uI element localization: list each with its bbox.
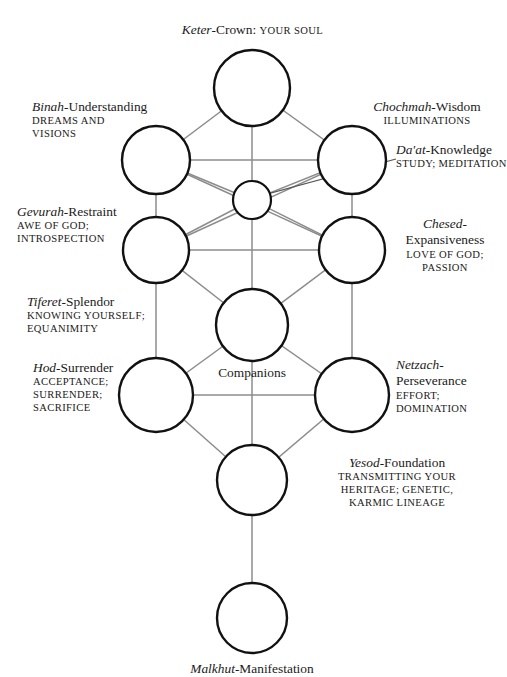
label-hod: Hod-Surrender ACCEPTANCE; SURRENDER; SAC… [33, 360, 113, 415]
label-chesed-dash: - [462, 216, 466, 231]
circle-tiferet[interactable] [216, 289, 288, 361]
label-tiferet-attr-2: EQUANIMITY [27, 323, 145, 336]
label-netzach-term: Netzach- [396, 357, 467, 373]
circle-yesod[interactable] [217, 445, 287, 515]
label-malkhut-hebrew: Malkhut [190, 661, 235, 676]
label-keter: Keter-Crown: YOUR SOUL [135, 22, 370, 38]
label-chochmah-term: Chochmah-Wisdom [352, 99, 502, 115]
label-chesed-term: Chesed- [390, 216, 500, 232]
label-binah-attributes: DREAMS AND VISIONS [32, 115, 147, 141]
label-tiferet: Tiferet-Splendor KNOWING YOURSELF; EQUAN… [27, 294, 145, 336]
label-netzach-english: Perseverance [396, 373, 467, 389]
label-netzach-attributes: EFFORT; DOMINATION [396, 390, 467, 416]
label-binah-term: Binah-Understanding [32, 99, 147, 115]
label-tiferet-hebrew: Tiferet [27, 294, 61, 309]
label-netzach-attr-2: DOMINATION [396, 403, 467, 416]
label-netzach: Netzach- Perseverance EFFORT; DOMINATION [396, 357, 467, 416]
label-chochmah: Chochmah-Wisdom ILLUMINATIONS [352, 99, 502, 128]
label-chesed: Chesed- Expansiveness LOVE OF GOD; PASSI… [390, 216, 500, 275]
circle-gevurah[interactable] [123, 217, 189, 283]
label-netzach-attr-1: EFFORT; [396, 390, 467, 403]
label-gevurah-attr-1: AWE OF GOD; [17, 220, 117, 233]
label-yesod-attr-3: KARMIC LINEAGE [302, 497, 492, 510]
label-daat: Da'at-Knowledge STUDY; MEDITATION [396, 142, 507, 171]
label-keter-english: Crown [216, 22, 252, 37]
circle-chochmah[interactable] [318, 126, 386, 194]
label-tiferet-term: Tiferet-Splendor [27, 294, 145, 310]
label-tiferet-attributes: KNOWING YOURSELF; EQUANIMITY [27, 310, 145, 336]
label-keter-hebrew: Keter [182, 22, 212, 37]
label-hod-english: Surrender [61, 360, 114, 375]
label-yesod-attr-2: HERITAGE; GENETIC, [302, 484, 492, 497]
label-daat-term: Da'at-Knowledge [396, 142, 507, 158]
label-yesod: Yesod-Foundation TRANSMITTING YOUR HERIT… [302, 455, 492, 510]
circle-daat[interactable] [233, 181, 271, 219]
label-yesod-attr-1: TRANSMITTING YOUR [302, 471, 492, 484]
label-malkhut: Malkhut-Manifestation [152, 661, 352, 677]
label-hod-attr-1: ACCEPTANCE; [33, 376, 113, 389]
label-yesod-english: Foundation [384, 455, 445, 470]
label-chesed-english: Expansiveness [390, 232, 500, 248]
label-chesed-attr-1: LOVE OF GOD; [390, 249, 500, 262]
label-hod-attributes: ACCEPTANCE; SURRENDER; SACRIFICE [33, 376, 113, 415]
label-chochmah-english: Wisdom [436, 99, 481, 114]
circle-chesed[interactable] [319, 217, 385, 283]
label-daat-hebrew: Da'at [396, 142, 426, 157]
label-hod-attr-3: SACRIFICE [33, 402, 113, 415]
label-chochmah-hebrew: Chochmah [373, 99, 431, 114]
label-chochmah-attributes: ILLUMINATIONS [352, 115, 502, 128]
label-gevurah-attr-2: INTROSPECTION [17, 233, 117, 246]
label-netzach-dash: - [439, 357, 443, 372]
label-chesed-attr-2: PASSION [390, 262, 500, 275]
label-daat-attr-1: STUDY; MEDITATION [396, 158, 507, 171]
label-companions: Companions [182, 365, 322, 381]
label-yesod-hebrew: Yesod [349, 455, 380, 470]
label-keter-attr: YOUR SOUL [260, 25, 324, 36]
label-gevurah-attributes: AWE OF GOD; INTROSPECTION [17, 220, 117, 246]
label-binah-english: Understanding [68, 99, 147, 114]
label-yesod-attributes: TRANSMITTING YOUR HERITAGE; GENETIC, KAR… [302, 471, 492, 510]
label-daat-english: Knowledge [430, 142, 492, 157]
label-hod-hebrew: Hod [33, 360, 56, 375]
label-tiferet-attr-1: KNOWING YOURSELF; [27, 310, 145, 323]
label-tiferet-english: Splendor [66, 294, 114, 309]
sephirot-circles [119, 50, 389, 653]
label-netzach-hebrew: Netzach [396, 357, 439, 372]
label-chesed-hebrew: Chesed [423, 216, 462, 231]
label-binah-attr-1: DREAMS AND [32, 115, 147, 128]
label-gevurah-english: Restraint [68, 204, 116, 219]
circle-keter[interactable] [214, 50, 290, 126]
label-binah-attr-2: VISIONS [32, 128, 147, 141]
label-chesed-attributes: LOVE OF GOD; PASSION [390, 249, 500, 275]
label-gevurah-term: Gevurah-Restraint [17, 204, 117, 220]
circle-malkhut[interactable] [217, 583, 287, 653]
label-hod-term: Hod-Surrender [33, 360, 113, 376]
label-binah: Binah-Understanding DREAMS AND VISIONS [32, 99, 147, 141]
label-daat-attributes: STUDY; MEDITATION [396, 158, 507, 171]
circle-netzach[interactable] [315, 358, 389, 432]
label-binah-hebrew: Binah [32, 99, 64, 114]
label-chochmah-attr-1: ILLUMINATIONS [352, 115, 502, 128]
label-yesod-term: Yesod-Foundation [302, 455, 492, 471]
label-keter-term: Keter-Crown: YOUR SOUL [135, 22, 370, 38]
label-keter-colon: : [252, 22, 256, 37]
label-malkhut-english: Manifestation [239, 661, 313, 676]
label-gevurah: Gevurah-Restraint AWE OF GOD; INTROSPECT… [17, 204, 117, 246]
label-hod-attr-2: SURRENDER; [33, 389, 113, 402]
label-gevurah-hebrew: Gevurah [17, 204, 64, 219]
